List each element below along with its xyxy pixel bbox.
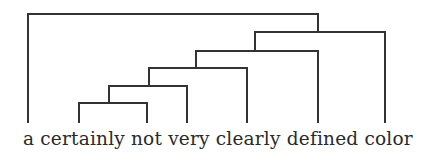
dendrogram [0,0,429,130]
caption-text: a certainly not very clearly defined col… [23,128,413,149]
